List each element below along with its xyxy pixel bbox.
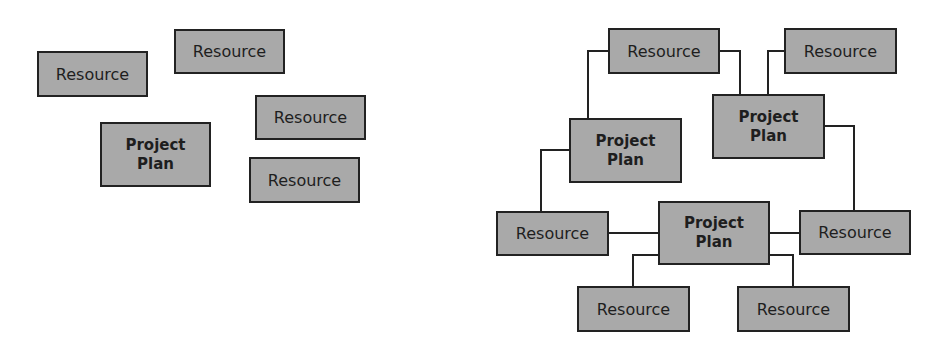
node-label: Resource <box>268 171 341 190</box>
node-label: Resource <box>627 42 700 61</box>
node-label: Resource <box>757 300 830 319</box>
resource-node: Resource <box>737 286 850 332</box>
resource-node: Resource <box>255 95 366 140</box>
node-label: Resource <box>56 65 129 84</box>
project-plan-node: Project Plan <box>569 118 682 183</box>
resource-node: Resource <box>577 286 690 332</box>
resource-node: Resource <box>496 211 609 256</box>
resource-node: Resource <box>784 28 897 74</box>
project-plan-node: Project Plan <box>658 201 770 265</box>
node-label: Project Plan <box>738 108 798 146</box>
connector-R-r2-to-R-pp2 <box>768 51 784 94</box>
resource-node: Resource <box>37 51 148 97</box>
node-label: Resource <box>193 42 266 61</box>
node-label: Resource <box>597 300 670 319</box>
node-label: Resource <box>818 223 891 242</box>
project-plan-node: Project Plan <box>712 94 825 159</box>
node-label: Project Plan <box>684 214 744 252</box>
connector-R-pp3-to-R-r6 <box>770 255 793 286</box>
resource-node: Resource <box>608 28 720 74</box>
resource-node: Resource <box>249 157 360 203</box>
connector-R-pp3-to-R-r5 <box>633 255 658 286</box>
node-label: Resource <box>516 224 589 243</box>
resource-node: Resource <box>799 210 911 255</box>
connector-R-pp1-to-R-r3 <box>541 150 569 211</box>
connector-R-r1-to-R-pp2 <box>720 51 740 94</box>
project-plan-node: Project Plan <box>100 122 211 187</box>
node-label: Project Plan <box>595 132 655 170</box>
node-label: Resource <box>804 42 877 61</box>
node-label: Resource <box>274 108 347 127</box>
node-label: Project Plan <box>125 136 185 174</box>
connector-R-r1-to-R-pp1 <box>588 51 608 118</box>
resource-node: Resource <box>174 29 285 74</box>
connector-R-pp2-to-R-r4 <box>825 126 854 210</box>
